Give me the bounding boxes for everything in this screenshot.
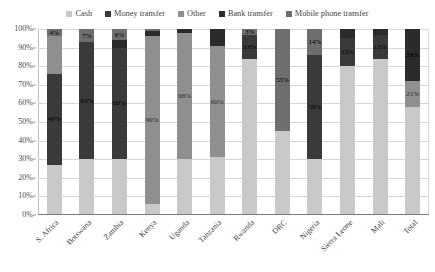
bar-segment[interactable] — [177, 29, 192, 33]
bar-segment[interactable] — [145, 31, 160, 37]
bar-slot: 68% — [168, 29, 201, 215]
data-label: 60% — [211, 98, 224, 105]
bar-segment[interactable] — [340, 29, 355, 38]
data-label: 14% — [308, 39, 321, 46]
legend-swatch-icon — [105, 11, 111, 17]
stacked-bar[interactable]: 60%6% — [112, 29, 127, 215]
stacked-bar[interactable]: 13%3% — [242, 29, 257, 215]
x-axis: S. AfricaBotswanaZambiaKenyaUgandaTanzan… — [38, 216, 429, 272]
data-label: 13% — [243, 43, 256, 50]
legend-item-mobile-phone-transfer[interactable]: Mobile phone transfer — [286, 9, 369, 18]
bar-slot: 21%28% — [396, 29, 429, 215]
legend-item-money-transfer[interactable]: Money transfer — [105, 9, 165, 18]
y-axis-tick-mark — [33, 196, 36, 197]
x-axis-label-slot: Mali — [364, 216, 397, 272]
stacked-bar[interactable]: 63%7% — [79, 29, 94, 215]
stacked-bar[interactable]: 90% — [145, 29, 160, 215]
bar-segment[interactable] — [112, 40, 127, 47]
stacked-bar[interactable]: 56%14% — [307, 29, 322, 215]
y-axis-tick-label: 70% — [18, 81, 33, 89]
stacked-bar[interactable]: 13% — [373, 29, 388, 215]
y-axis-tick-label: 100% — [14, 25, 33, 33]
bar-segment[interactable] — [275, 131, 290, 215]
data-label: 63% — [80, 97, 93, 104]
bar-slot: 49%4% — [38, 29, 71, 215]
x-axis-label-slot: DRC — [266, 216, 299, 272]
legend-item-other[interactable]: Other — [178, 9, 206, 18]
y-axis-tick-mark — [33, 122, 36, 123]
y-axis: 100%90%80%70%60%50%40%30%20%10%0% — [0, 29, 36, 215]
legend-label: Cash — [75, 9, 92, 18]
legend-label: Other — [187, 9, 206, 18]
chart-legend: CashMoney transferOtherBank transferMobi… — [0, 9, 435, 18]
bar-segment[interactable] — [373, 29, 388, 35]
stacked-bar[interactable]: 60% — [210, 29, 225, 215]
x-axis-tick-label: Uganda — [167, 218, 191, 242]
data-label: 15% — [341, 49, 354, 56]
stacked-bar-chart: CashMoney transferOtherBank transferMobi… — [0, 0, 435, 272]
bar-segment[interactable] — [373, 59, 388, 215]
x-axis-label-slot: Kenya — [136, 216, 169, 272]
x-axis-tick-label: DRC — [271, 218, 289, 236]
stacked-bar[interactable]: 21%28% — [405, 29, 420, 215]
data-label: 3% — [245, 28, 254, 35]
bar-segment[interactable] — [47, 36, 62, 73]
x-axis-tick-label: Tanzania — [197, 218, 224, 245]
y-axis-tick-label: 60% — [18, 99, 33, 107]
bar-segment[interactable] — [79, 159, 94, 215]
bar-segment[interactable] — [112, 159, 127, 215]
bar-slot: 15% — [331, 29, 364, 215]
legend-swatch-icon — [219, 11, 225, 17]
x-axis-tick-label: Zambia — [102, 218, 126, 242]
y-axis-tick-mark — [33, 177, 36, 178]
bar-segment[interactable] — [210, 29, 225, 46]
y-axis-tick-label: 90% — [18, 44, 33, 52]
bar-segment[interactable] — [340, 66, 355, 215]
bar-group: 49%4%63%7%60%6%90%68%60%13%3%55%56%14%15… — [38, 29, 429, 215]
bar-slot: 60% — [201, 29, 234, 215]
bar-segment[interactable] — [307, 159, 322, 215]
y-axis-tick-mark — [33, 29, 36, 30]
bar-slot: 60%6% — [103, 29, 136, 215]
y-axis-tick-label: 20% — [18, 174, 33, 182]
legend-swatch-icon — [178, 11, 184, 17]
stacked-bar[interactable]: 15% — [340, 29, 355, 215]
bar-segment[interactable] — [405, 107, 420, 215]
legend-item-bank-transfer[interactable]: Bank transfer — [219, 9, 273, 18]
x-axis-label-slot: Tanzania — [201, 216, 234, 272]
y-axis-tick-label: 80% — [18, 62, 33, 70]
y-axis-tick-mark — [33, 103, 36, 104]
data-label: 55% — [276, 77, 289, 84]
y-axis-tick-mark — [33, 215, 36, 216]
x-axis-label-slot: Sierra Leone — [331, 216, 364, 272]
plot-area: 49%4%63%7%60%6%90%68%60%13%3%55%56%14%15… — [38, 29, 429, 215]
stacked-bar[interactable]: 55% — [275, 29, 290, 215]
legend-swatch-icon — [66, 11, 72, 17]
x-axis-label-slot: S. Africa — [38, 216, 71, 272]
bar-segment[interactable] — [210, 157, 225, 215]
x-axis-tick-label: Kenya — [137, 218, 158, 239]
data-label: 56% — [308, 104, 321, 111]
data-label: 6% — [115, 31, 124, 38]
legend-item-cash[interactable]: Cash — [66, 9, 92, 18]
y-axis-tick-mark — [33, 140, 36, 141]
bar-segment[interactable] — [242, 59, 257, 215]
bar-slot: 55% — [266, 29, 299, 215]
stacked-bar[interactable]: 49%4% — [47, 29, 62, 215]
data-label: 4% — [50, 29, 59, 36]
bar-slot: 90% — [136, 29, 169, 215]
x-axis-tick-label: Total — [401, 218, 419, 236]
bar-segment[interactable] — [145, 29, 160, 31]
data-label: 68% — [178, 92, 191, 99]
data-label: 28% — [406, 52, 419, 59]
x-axis-label-slot: Botswana — [71, 216, 104, 272]
x-axis-label-slot: Zambia — [103, 216, 136, 272]
y-axis-tick-label: 0% — [22, 211, 33, 219]
y-axis-tick-label: 10% — [18, 192, 33, 200]
bar-segment[interactable] — [47, 165, 62, 215]
x-axis-label-slot: Rwanda — [234, 216, 267, 272]
stacked-bar[interactable]: 68% — [177, 29, 192, 215]
legend-label: Mobile phone transfer — [295, 9, 369, 18]
legend-label: Bank transfer — [228, 9, 273, 18]
bar-segment[interactable] — [177, 159, 192, 215]
